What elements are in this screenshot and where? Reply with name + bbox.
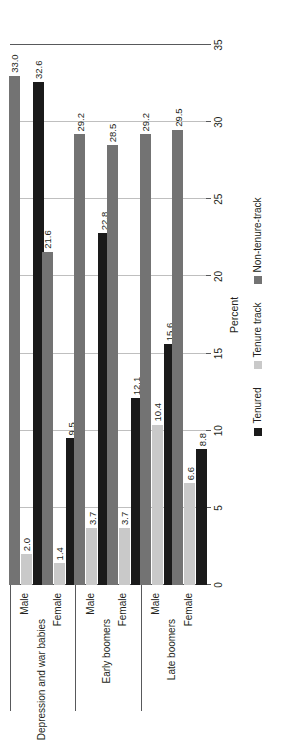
legend-swatch (254, 428, 262, 436)
bar-value-label: 21.6 (42, 230, 53, 249)
bar-value-label: 2.0 (21, 538, 32, 551)
bar (172, 130, 183, 585)
bar-value-label: 3.7 (119, 512, 130, 525)
bar-value-label: 10.4 (152, 403, 163, 422)
axis-tick (206, 353, 211, 354)
bar (86, 528, 97, 585)
bar (21, 554, 32, 585)
legend-label: Tenured (252, 387, 263, 423)
chart-legend: TenuredTenure trackNon-tenure-track (252, 0, 263, 633)
group-separator (141, 585, 142, 711)
bar (9, 76, 20, 585)
axis-tick (206, 198, 211, 199)
category-label: Male (150, 593, 161, 615)
bar-value-label: 28.5 (107, 124, 118, 143)
bar-value-label: 29.5 (172, 108, 183, 127)
legend-label: Tenure track (252, 302, 263, 357)
bar-value-label: 32.6 (33, 61, 44, 80)
axis-title: Percent (228, 297, 240, 333)
category-label: Male (19, 593, 30, 615)
bar (140, 135, 151, 586)
bar (54, 563, 65, 585)
axis-tick-label: 30 (213, 117, 224, 128)
axis-tick-label: 25 (213, 194, 224, 205)
bar (42, 252, 53, 585)
bar (184, 483, 195, 585)
bar-value-label: 8.8 (196, 433, 207, 446)
category-label: Female (117, 593, 128, 626)
axis-tick (206, 430, 211, 431)
axis-tick-label: 0 (213, 582, 224, 588)
group-label: Depression and war babies (36, 619, 47, 740)
category-label: Male (85, 593, 96, 615)
legend-item: Tenure track (252, 302, 263, 369)
axis-tick-label: 5 (213, 505, 224, 511)
bar-value-label: 6.6 (184, 467, 195, 480)
group-separator (75, 585, 76, 711)
axis-tick-label: 35 (213, 39, 224, 50)
group-separator-top (10, 585, 11, 711)
legend-label: Non-tenure-track (252, 197, 263, 272)
axis-tick-label: 20 (213, 271, 224, 282)
axis-tick-label: 10 (213, 425, 224, 436)
category-label: Female (52, 593, 63, 626)
bar-value-label: 33.0 (9, 54, 20, 73)
category-label: Female (183, 593, 194, 626)
bar (74, 135, 85, 586)
axis-outer-line (10, 44, 206, 45)
legend-item: Non-tenure-track (252, 197, 263, 284)
group-label: Late boomers (166, 619, 177, 680)
legend-swatch (254, 276, 262, 284)
group-label: Early boomers (101, 619, 112, 683)
bar (152, 425, 163, 585)
legend-swatch (254, 361, 262, 369)
legend-item: Tenured (252, 387, 263, 435)
axis-tick (206, 275, 211, 276)
axis-tick (206, 44, 211, 45)
bar-value-label: 29.2 (74, 113, 85, 132)
bar (119, 528, 130, 585)
bar (196, 449, 207, 585)
bar (107, 145, 118, 585)
bar-value-label: 3.7 (86, 512, 97, 525)
bar-value-label: 1.4 (54, 547, 65, 560)
bar-value-label: 29.2 (140, 113, 151, 132)
axis-tick (206, 121, 211, 122)
axis-tick-label: 15 (213, 348, 224, 359)
